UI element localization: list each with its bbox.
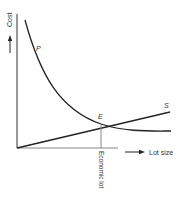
economic-lot-label: Economic lot: [98, 151, 105, 188]
line-s-label: S: [164, 102, 169, 109]
arrow-up-icon: [8, 35, 12, 53]
x-axis-label: Lot size: [149, 149, 173, 156]
intersection-label: E: [98, 113, 103, 120]
diagram-canvas: Cost P S E Economic lot Lot size: [0, 0, 185, 203]
y-axis-label: Cost: [6, 13, 13, 27]
line-s: [17, 112, 170, 148]
curve-p-label: P: [36, 45, 41, 52]
arrow-right-icon: [125, 150, 145, 154]
